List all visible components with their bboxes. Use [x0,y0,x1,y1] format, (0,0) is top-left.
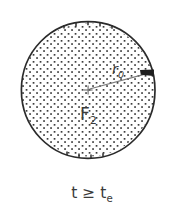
caption-t-right-subscript: e [106,193,112,204]
region-label-subscript: 2 [90,114,97,127]
diagram-canvas: r0 F2 t≥te [0,0,184,218]
caption-relation-symbol: ≥ [82,184,95,202]
caption-label: t≥te [71,184,112,204]
figure-container: r0 F2 t≥te [0,0,184,218]
caption-t-left: t [71,184,77,202]
radius-label-subscript: 0 [118,69,124,80]
region-label-main: F [80,104,90,124]
